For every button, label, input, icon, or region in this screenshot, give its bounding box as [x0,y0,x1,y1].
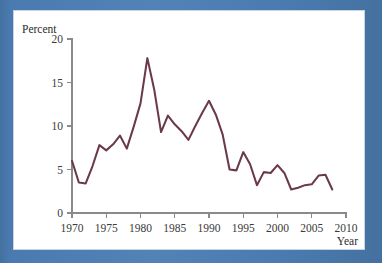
y-axis: 05101520 [52,33,74,219]
y-axis-title: Percent [22,23,57,35]
x-tick-label: 1985 [163,222,186,234]
x-tick-label: 2000 [266,222,289,234]
y-tick-label: 10 [52,120,64,132]
y-tick-label: 15 [52,77,64,89]
x-axis-title: Year [337,235,358,247]
x-tick-label: 1980 [129,222,152,234]
data-line [72,58,332,189]
y-tick-label: 0 [57,207,63,219]
figure-frame: 05101520 1970197519801985199019952000200… [0,0,382,263]
line-chart: 05101520 1970197519801985199019952000200… [14,11,365,250]
data-series [72,58,332,189]
chart-card: 05101520 1970197519801985199019952000200… [13,10,365,250]
y-tick-label: 5 [57,164,63,176]
x-tick-label: 2005 [300,222,323,234]
x-tick-label: 1995 [232,222,255,234]
x-axis: 197019751980198519901995200020052010 [61,212,358,234]
x-tick-label: 1990 [198,222,221,234]
x-tick-label: 2010 [335,222,358,234]
x-tick-label: 1975 [95,222,118,234]
x-tick-label: 1970 [61,222,84,234]
